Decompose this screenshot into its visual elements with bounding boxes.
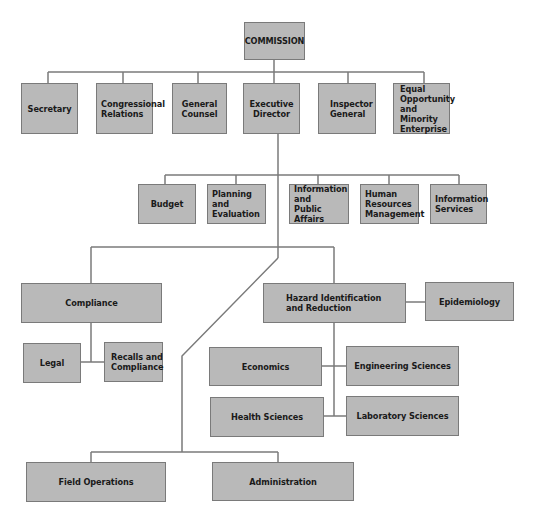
node-label: Compliance <box>65 298 117 308</box>
node-congressional-relations: Congressional Relations <box>96 83 153 134</box>
node-label: Economics <box>242 362 290 372</box>
node-field-operations: Field Operations <box>26 462 166 502</box>
node-label: Budget <box>151 199 184 209</box>
node-label: Human Resources Management <box>365 189 424 219</box>
node-label: Engineering Sciences <box>354 361 451 371</box>
node-label: Executive Director <box>250 99 294 119</box>
node-budget: Budget <box>138 184 196 224</box>
node-label: Field Operations <box>59 477 134 487</box>
node-human-resources: Human Resources Management <box>360 184 419 224</box>
node-recalls-compliance: Recalls and Compliance <box>104 342 163 382</box>
node-label: Administration <box>249 477 316 487</box>
connector-lines <box>0 0 535 525</box>
node-label: Recalls and Compliance <box>111 352 163 372</box>
node-laboratory-sciences: Laboratory Sciences <box>346 396 459 436</box>
node-executive-director: Executive Director <box>243 83 300 134</box>
node-legal: Legal <box>23 343 81 383</box>
node-economics: Economics <box>209 347 322 386</box>
node-general-counsel: General Counsel <box>172 83 227 134</box>
node-info-public-affairs: Information and Public Affairs <box>289 184 349 224</box>
node-health-sciences: Health Sciences <box>210 397 324 437</box>
node-label: Information and Public Affairs <box>294 184 348 224</box>
node-administration: Administration <box>212 462 354 501</box>
node-planning-evaluation: Planning and Evaluation <box>207 184 266 224</box>
node-commission: COMMISSION <box>244 22 305 60</box>
node-engineering-sciences: Engineering Sciences <box>346 346 459 386</box>
node-equal-opportunity: Equal Opportunity and Minority Enterpris… <box>393 83 450 134</box>
node-label: Congressional Relations <box>101 99 165 119</box>
node-label: Hazard Identification and Reduction <box>286 293 381 313</box>
node-label: Inspector General <box>330 99 373 119</box>
node-label: Planning and Evaluation <box>212 189 260 219</box>
node-compliance: Compliance <box>21 283 162 323</box>
org-chart: COMMISSION Secretary Congressional Relat… <box>0 0 535 525</box>
node-label: Legal <box>40 358 64 368</box>
node-label: Information Services <box>435 194 488 214</box>
node-epidemiology: Epidemiology <box>425 282 514 321</box>
node-label: Epidemiology <box>439 297 500 307</box>
node-information-services: Information Services <box>430 184 487 224</box>
node-label: Laboratory Sciences <box>357 411 449 421</box>
node-hazard-identification: Hazard Identification and Reduction <box>263 283 406 323</box>
node-label: Secretary <box>28 104 72 114</box>
node-label: Equal Opportunity and Minority Enterpris… <box>400 84 455 134</box>
node-secretary: Secretary <box>21 83 78 134</box>
node-label: General Counsel <box>182 99 218 119</box>
node-label: COMMISSION <box>245 36 305 46</box>
node-label: Health Sciences <box>231 412 303 422</box>
node-inspector-general: Inspector General <box>318 83 376 134</box>
